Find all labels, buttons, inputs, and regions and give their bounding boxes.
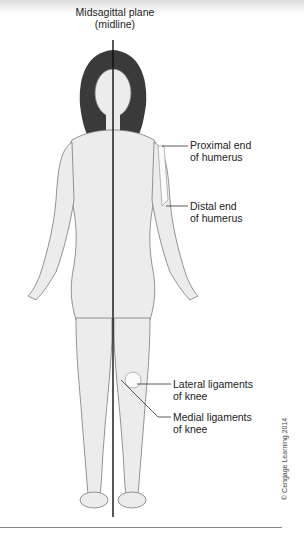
leg-left (76, 318, 112, 495)
label-line: of knee (173, 423, 252, 435)
label-line: Medial ligaments (173, 411, 252, 423)
label-distal-humerus: Distal end of humerus (190, 200, 243, 224)
label-line: Proximal end (190, 139, 251, 151)
label-line: of knee (173, 390, 253, 402)
anatomical-figure (0, 0, 304, 534)
knee-joint (125, 372, 141, 388)
foot-left (80, 492, 108, 508)
copyright-notice: © Cengage Learning 2014 (281, 418, 288, 500)
label-proximal-humerus: Proximal end of humerus (190, 139, 251, 163)
label-lateral-ligaments: Lateral ligaments of knee (173, 378, 253, 402)
bottom-rule (0, 527, 282, 528)
label-line: of humerus (190, 212, 243, 224)
label-medial-ligaments: Medial ligaments of knee (173, 411, 252, 435)
label-line: of humerus (190, 151, 251, 163)
label-line: Distal end (190, 200, 243, 212)
leg-right (114, 318, 150, 495)
label-line: Lateral ligaments (173, 378, 253, 390)
arm-left (28, 142, 74, 300)
foot-right (118, 492, 146, 508)
